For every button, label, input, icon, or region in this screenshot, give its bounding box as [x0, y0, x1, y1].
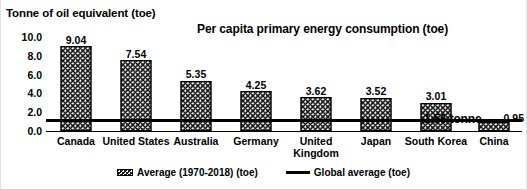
legend-label-average: Average (1970-2018) (toe): [137, 167, 258, 178]
bar-germany[interactable]: [241, 91, 272, 131]
dotted-pattern-swatch-icon: [117, 169, 133, 176]
x-axis-label-china: China: [466, 136, 522, 148]
legend-label-global-average: Global average (toe): [314, 167, 410, 178]
figure-bottom-border: [0, 189, 527, 190]
y-axis-tick-2: 2.0: [8, 106, 42, 118]
bar-australia[interactable]: [181, 81, 212, 131]
legend-item-global-average[interactable]: Global average (toe): [286, 167, 410, 178]
bar-value-japan: 3.52: [366, 85, 386, 97]
bar-canada[interactable]: [61, 46, 92, 131]
chart-legend: Average (1970-2018) (toe) Global average…: [0, 167, 527, 178]
bar-japan[interactable]: [361, 98, 392, 131]
bar-united-kingdom[interactable]: [301, 97, 332, 131]
bar-value-australia: 5.35: [186, 68, 206, 80]
bar-value-canada: 9.04: [66, 34, 86, 46]
bar-group-south-korea: 3.01 South Korea: [406, 0, 466, 160]
x-axis-label-south-korea: South Korea: [397, 136, 475, 148]
y-axis-tick-10: 10.0: [8, 31, 42, 43]
plot-area: 10.0 8.0 6.0 4.0 2.0 0.0 9.04 Canada 7.5…: [0, 0, 527, 160]
bar-value-united-states: 7.54: [126, 48, 146, 60]
solid-line-swatch-icon: [286, 171, 310, 174]
bar-value-germany: 4.25: [246, 79, 266, 91]
y-axis-tick-4: 4.0: [8, 87, 42, 99]
bar-chart-figure: Tonne of oil equivalent (toe) Per capita…: [0, 0, 527, 190]
y-axis-tick-6: 6.0: [8, 69, 42, 81]
global-average-annotation: 1.56 tonne: [424, 112, 481, 126]
bar-value-united-kingdom: 3.62: [306, 85, 326, 97]
y-axis-tick-8: 8.0: [8, 50, 42, 62]
legend-item-average[interactable]: Average (1970-2018) (toe): [117, 167, 258, 178]
bar-group-china: 0.95 China: [466, 0, 522, 160]
bar-value-south-korea: 3.01: [426, 90, 446, 102]
figure-left-border: [0, 0, 1, 190]
